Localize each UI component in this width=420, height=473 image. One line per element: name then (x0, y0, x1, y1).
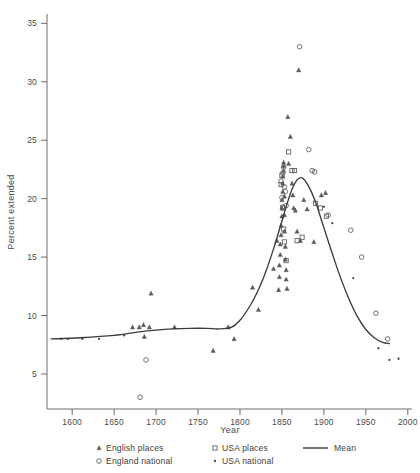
x-tick-label: 1650 (104, 417, 124, 427)
y-tick-label: 25 (27, 135, 37, 145)
legend-item-english-places: English places (97, 443, 164, 453)
y-axis-title: Percent extended (6, 174, 16, 249)
triangle-marker (277, 275, 281, 279)
dot-marker (397, 358, 399, 360)
dot-marker (388, 359, 390, 361)
triangle-marker (271, 266, 275, 270)
legend-item-usa-places: USA places (213, 443, 268, 453)
x-tick-label: 1750 (188, 417, 208, 427)
legend-label-mean: Mean (334, 443, 356, 453)
triangle-marker (211, 348, 215, 352)
circle-marker (359, 255, 364, 260)
y-tick-label: 30 (27, 77, 37, 87)
triangle-marker (291, 193, 295, 197)
y-tick-label: 5 (32, 369, 37, 379)
data-series-markers (60, 44, 400, 399)
triangle-marker (297, 68, 301, 72)
x-axis-title: Year (220, 425, 239, 435)
dot-marker (352, 277, 354, 279)
triangle-marker (302, 197, 306, 201)
legend-label-usa-national: USA national (222, 456, 274, 466)
x-tick-label: 2000 (398, 417, 418, 427)
scatter-plot: 5101520253035 16001650170017501800185019… (0, 0, 420, 473)
dot-marker-icon (214, 460, 216, 462)
triangle-marker (149, 291, 153, 295)
triangle-marker (319, 193, 323, 197)
y-tick-label: 15 (27, 252, 37, 262)
triangle-marker (276, 287, 280, 291)
triangle-marker (232, 337, 236, 341)
series-england-national (138, 44, 390, 399)
triangle-marker (312, 240, 316, 244)
triangle-marker (277, 263, 281, 267)
legend-item-usa-national: USA national (214, 456, 274, 466)
x-tick-label: 1950 (356, 417, 376, 427)
chart-legend: English places England national USA plac… (97, 443, 356, 466)
triangle-marker (256, 307, 260, 311)
triangle-marker (286, 114, 290, 118)
dot-marker (323, 206, 325, 208)
x-tick-label: 1600 (62, 417, 82, 427)
triangle-marker (284, 268, 288, 272)
triangle-marker (141, 323, 145, 327)
triangle-marker (147, 325, 151, 329)
triangle-marker (250, 285, 254, 289)
circle-marker (138, 395, 143, 400)
square-marker (318, 206, 322, 210)
y-tick-label: 10 (27, 311, 37, 321)
x-tick-label: 1900 (314, 417, 334, 427)
triangle-marker (285, 286, 289, 290)
square-marker-icon (213, 446, 217, 450)
dot-marker (98, 338, 100, 340)
triangle-marker (281, 160, 285, 164)
triangle-marker (288, 134, 292, 138)
legend-label-english-places: English places (106, 443, 164, 453)
square-marker-icon (213, 446, 217, 450)
circle-marker (385, 337, 390, 342)
mean-curve-line (51, 178, 389, 344)
y-tick-label: 20 (27, 194, 37, 204)
triangle-marker-icon (97, 446, 101, 450)
dot-marker (331, 222, 333, 224)
square-marker (287, 150, 291, 154)
circle-marker-icon (97, 459, 102, 464)
y-axis-ticks: 5101520253035 (27, 18, 47, 379)
triangle-marker (323, 190, 327, 194)
square-marker (282, 240, 286, 244)
triangle-marker (305, 207, 309, 211)
triangle-marker (142, 334, 146, 338)
triangle-marker-icon (97, 446, 101, 450)
chart-figure: 5101520253035 16001650170017501800185019… (0, 0, 420, 473)
dot-marker (377, 347, 379, 349)
circle-marker (144, 358, 149, 363)
circle-marker (348, 228, 353, 233)
legend-label-usa-places: USA places (222, 443, 268, 453)
legend-item-england-national: England national (97, 456, 173, 466)
x-tick-label: 1700 (146, 417, 166, 427)
circle-marker-icon (97, 459, 102, 464)
triangle-marker (283, 244, 287, 248)
circle-marker (297, 44, 302, 49)
triangle-marker (295, 229, 299, 233)
legend-label-england-national: England national (106, 456, 172, 466)
triangle-marker (130, 325, 134, 329)
x-tick-label: 1850 (272, 417, 292, 427)
triangle-marker (286, 161, 290, 165)
triangle-marker (284, 277, 288, 281)
dot-marker-icon (214, 460, 216, 462)
y-tick-label: 35 (27, 18, 37, 28)
x-axis-ticks: 160016501700175018001850190019502000 (62, 409, 417, 427)
legend-item-mean: Mean (303, 443, 356, 453)
axis-frame (47, 14, 412, 409)
series-english-places (130, 68, 327, 353)
triangle-marker (278, 252, 282, 256)
triangle-marker (137, 325, 141, 329)
circle-marker (374, 311, 379, 316)
circle-marker (306, 147, 311, 152)
